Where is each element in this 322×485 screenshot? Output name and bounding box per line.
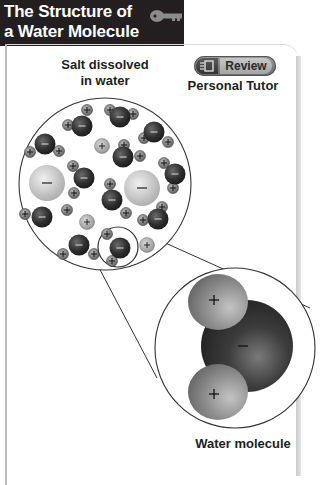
sodium-ion (95, 139, 110, 154)
chloride-ion (124, 170, 160, 206)
hydrogen-atom (188, 364, 248, 420)
sodium-ion (80, 215, 95, 230)
sodium-ion (140, 238, 155, 253)
water-molecule-caption: Water molecule (178, 436, 308, 451)
chloride-ion (29, 165, 65, 201)
hydrogen-atom (188, 274, 248, 330)
zoom-connector-lower (97, 264, 157, 378)
